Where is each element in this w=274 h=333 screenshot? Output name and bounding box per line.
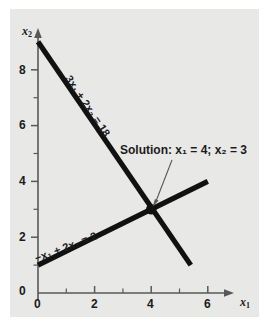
- y-tick-label-0: 0: [19, 284, 26, 298]
- x-tick-label-2: 2: [91, 297, 98, 311]
- plot-canvas: [0, 0, 274, 333]
- y-tick-label-2: 2: [19, 230, 26, 244]
- y-tick-label-4: 4: [19, 174, 26, 188]
- x-tick-label-4: 4: [147, 297, 154, 311]
- figure-container: 0 2 4 6 8 0 2 4 6 x2 x1 3x₁ + 2x₂ = 18 −…: [0, 0, 274, 333]
- y-tick-label-6: 6: [19, 118, 26, 132]
- solution-annotation-label: Solution: x₁ = 4; x₂ = 3: [120, 143, 247, 157]
- solution-point-marker: [146, 204, 156, 214]
- x-tick-label-0: 0: [34, 297, 41, 311]
- x-axis-label-sub: 1: [246, 301, 250, 310]
- y-axis-arrow-icon: [34, 28, 42, 38]
- y-axis-label: x2: [22, 24, 32, 39]
- x-axis-label: x1: [240, 295, 250, 310]
- y-axis-label-sub: 2: [28, 30, 32, 39]
- x-axis-arrow-icon: [224, 289, 234, 297]
- y-tick-label-8: 8: [19, 63, 26, 77]
- x-tick-label-6: 6: [204, 297, 211, 311]
- solution-leader-line: [156, 160, 173, 203]
